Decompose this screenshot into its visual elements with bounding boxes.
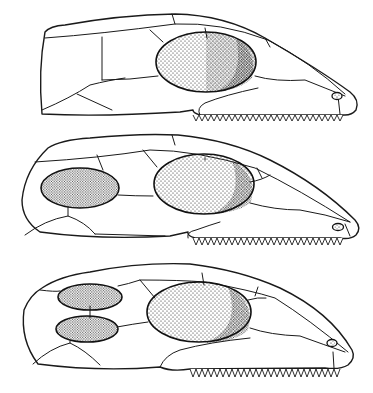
- skull-figure: [0, 0, 373, 393]
- orbit-top: [156, 32, 256, 92]
- lower-temporal-fenestra: [56, 316, 118, 342]
- teeth-bottom: [190, 369, 340, 377]
- orbit-middle: [154, 154, 254, 214]
- skull-anapsid: [41, 14, 358, 121]
- orbit-bottom: [147, 282, 251, 343]
- teeth-middle: [193, 238, 343, 245]
- upper-temporal-fenestra: [58, 284, 122, 310]
- skull-diapsid: [23, 264, 353, 377]
- temporal-fenestra-middle: [41, 168, 119, 208]
- skull-synapsid: [22, 134, 359, 245]
- teeth-top: [193, 115, 343, 121]
